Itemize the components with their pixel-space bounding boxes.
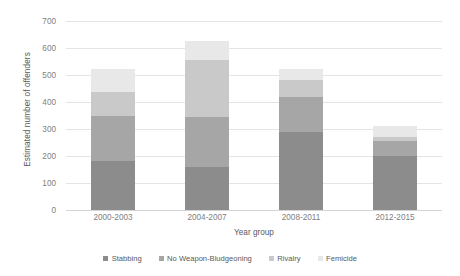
x-tick-label: 2008-2011 xyxy=(271,213,331,222)
bar-segment-rivalry[interactable] xyxy=(279,80,323,96)
bar-group[interactable] xyxy=(185,21,229,210)
bar-series-container xyxy=(66,21,442,210)
x-tick-label: 2000-2003 xyxy=(83,213,143,222)
legend-swatch-icon xyxy=(318,256,323,261)
y-tick-label: 300 xyxy=(42,125,56,134)
bar-segment-stabbing[interactable] xyxy=(279,132,323,210)
stacked-bar-chart: Estimated number of offenders 0100200300… xyxy=(0,0,460,276)
y-tick-label: 700 xyxy=(42,17,56,26)
y-tick-label: 200 xyxy=(42,152,56,161)
x-tick-label: 2004-2007 xyxy=(177,213,237,222)
legend-label: No Weapon-Bludgeoning xyxy=(167,254,252,263)
gridline xyxy=(66,210,442,211)
bar-segment-no-weapon-bludgeoning[interactable] xyxy=(279,97,323,132)
bar-segment-rivalry[interactable] xyxy=(91,92,135,115)
legend-label: Femicide xyxy=(326,254,357,263)
bar-segment-femicide[interactable] xyxy=(279,69,323,80)
x-tick-label: 2012-2015 xyxy=(365,213,425,222)
bar-segment-stabbing[interactable] xyxy=(91,161,135,210)
legend-swatch-icon xyxy=(159,256,164,261)
legend-item[interactable]: Stabbing xyxy=(103,254,141,263)
legend-swatch-icon xyxy=(269,256,274,261)
legend-item[interactable]: Femicide xyxy=(318,254,357,263)
y-tick-label: 600 xyxy=(42,44,56,53)
legend-item[interactable]: Rivalry xyxy=(269,254,301,263)
y-tick-label: 500 xyxy=(42,71,56,80)
legend-swatch-icon xyxy=(103,256,108,261)
legend-label: Rivalry xyxy=(277,254,300,263)
legend-item[interactable]: No Weapon-Bludgeoning xyxy=(159,254,252,263)
bar-segment-stabbing[interactable] xyxy=(373,156,417,210)
legend-label: Stabbing xyxy=(112,254,142,263)
bar-segment-no-weapon-bludgeoning[interactable] xyxy=(185,117,229,167)
bar-segment-femicide[interactable] xyxy=(373,126,417,136)
bar-segment-rivalry[interactable] xyxy=(185,60,229,117)
y-tick-label: 100 xyxy=(42,179,56,188)
bar-segment-no-weapon-bludgeoning[interactable] xyxy=(373,141,417,156)
bar-group[interactable] xyxy=(373,21,417,210)
bar-segment-no-weapon-bludgeoning[interactable] xyxy=(91,116,135,162)
plot-area xyxy=(66,21,442,210)
bar-group[interactable] xyxy=(279,21,323,210)
bar-segment-femicide[interactable] xyxy=(91,69,135,92)
bar-segment-femicide[interactable] xyxy=(185,41,229,60)
y-tick-label: 0 xyxy=(51,206,56,215)
y-tick-label: 400 xyxy=(42,98,56,107)
chart-legend: StabbingNo Weapon-BludgeoningRivalryFemi… xyxy=(0,254,460,263)
x-axis-ticks: 2000-20032004-20072008-20112012-2015 xyxy=(66,213,442,222)
bar-segment-stabbing[interactable] xyxy=(185,167,229,210)
x-axis-title: Year group xyxy=(66,228,442,237)
bar-group[interactable] xyxy=(91,21,135,210)
y-axis-ticks: 0100200300400500600700 xyxy=(0,21,62,210)
